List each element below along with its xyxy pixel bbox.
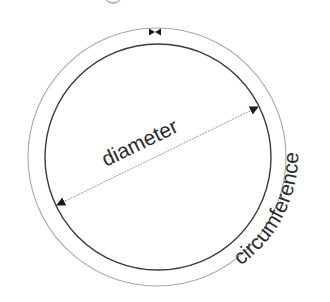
bowtie-marker-icon — [149, 29, 161, 36]
circumference-label: circumference — [229, 152, 302, 269]
diameter-label: diameter — [98, 114, 182, 170]
circle-diagram: diameter circumference — [0, 0, 330, 302]
inner-circle — [45, 44, 271, 270]
circumference-text-path: circumference — [229, 152, 302, 269]
